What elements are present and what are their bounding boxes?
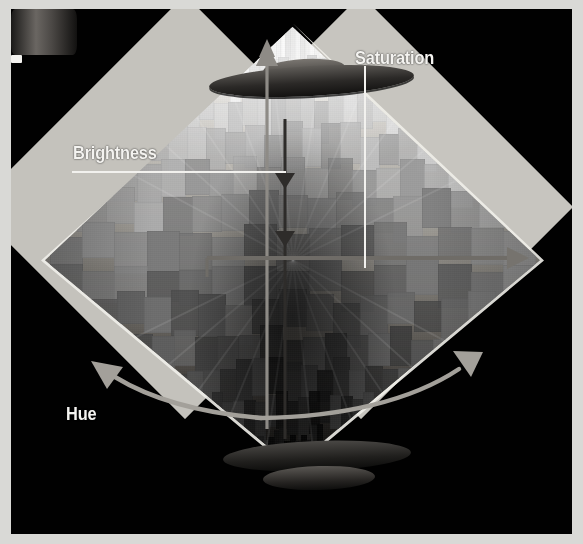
color-chip [471,228,504,266]
color-chip [212,237,245,268]
saturation-leader-line [364,66,366,268]
base-indicator-marker [11,55,22,63]
color-solid [11,9,572,534]
figure-page: Saturation Brightness Hue [0,0,583,544]
base-cylinder [11,9,77,55]
color-chip [117,291,145,324]
color-chip [179,233,212,271]
brightness-label: Brightness [73,142,157,164]
brightness-leader-line [72,171,286,173]
color-chip [252,358,269,396]
color-chip [411,340,434,377]
color-chip [82,222,115,259]
color-chip [438,227,471,260]
color-chip [134,202,164,234]
color-chip [309,256,342,292]
color-chip [242,94,257,126]
figure-canvas: Saturation Brightness Hue [11,9,572,534]
color-chip [433,339,456,378]
color-chip [341,225,374,256]
hue-label: Hue [66,403,96,425]
color-chip [144,297,172,333]
color-chip [406,258,439,295]
color-chip [374,222,407,266]
color-chip [390,326,413,366]
color-chip [278,195,308,228]
saturation-label: Saturation [355,47,434,69]
color-chip [185,159,210,196]
color-chip [163,197,193,236]
